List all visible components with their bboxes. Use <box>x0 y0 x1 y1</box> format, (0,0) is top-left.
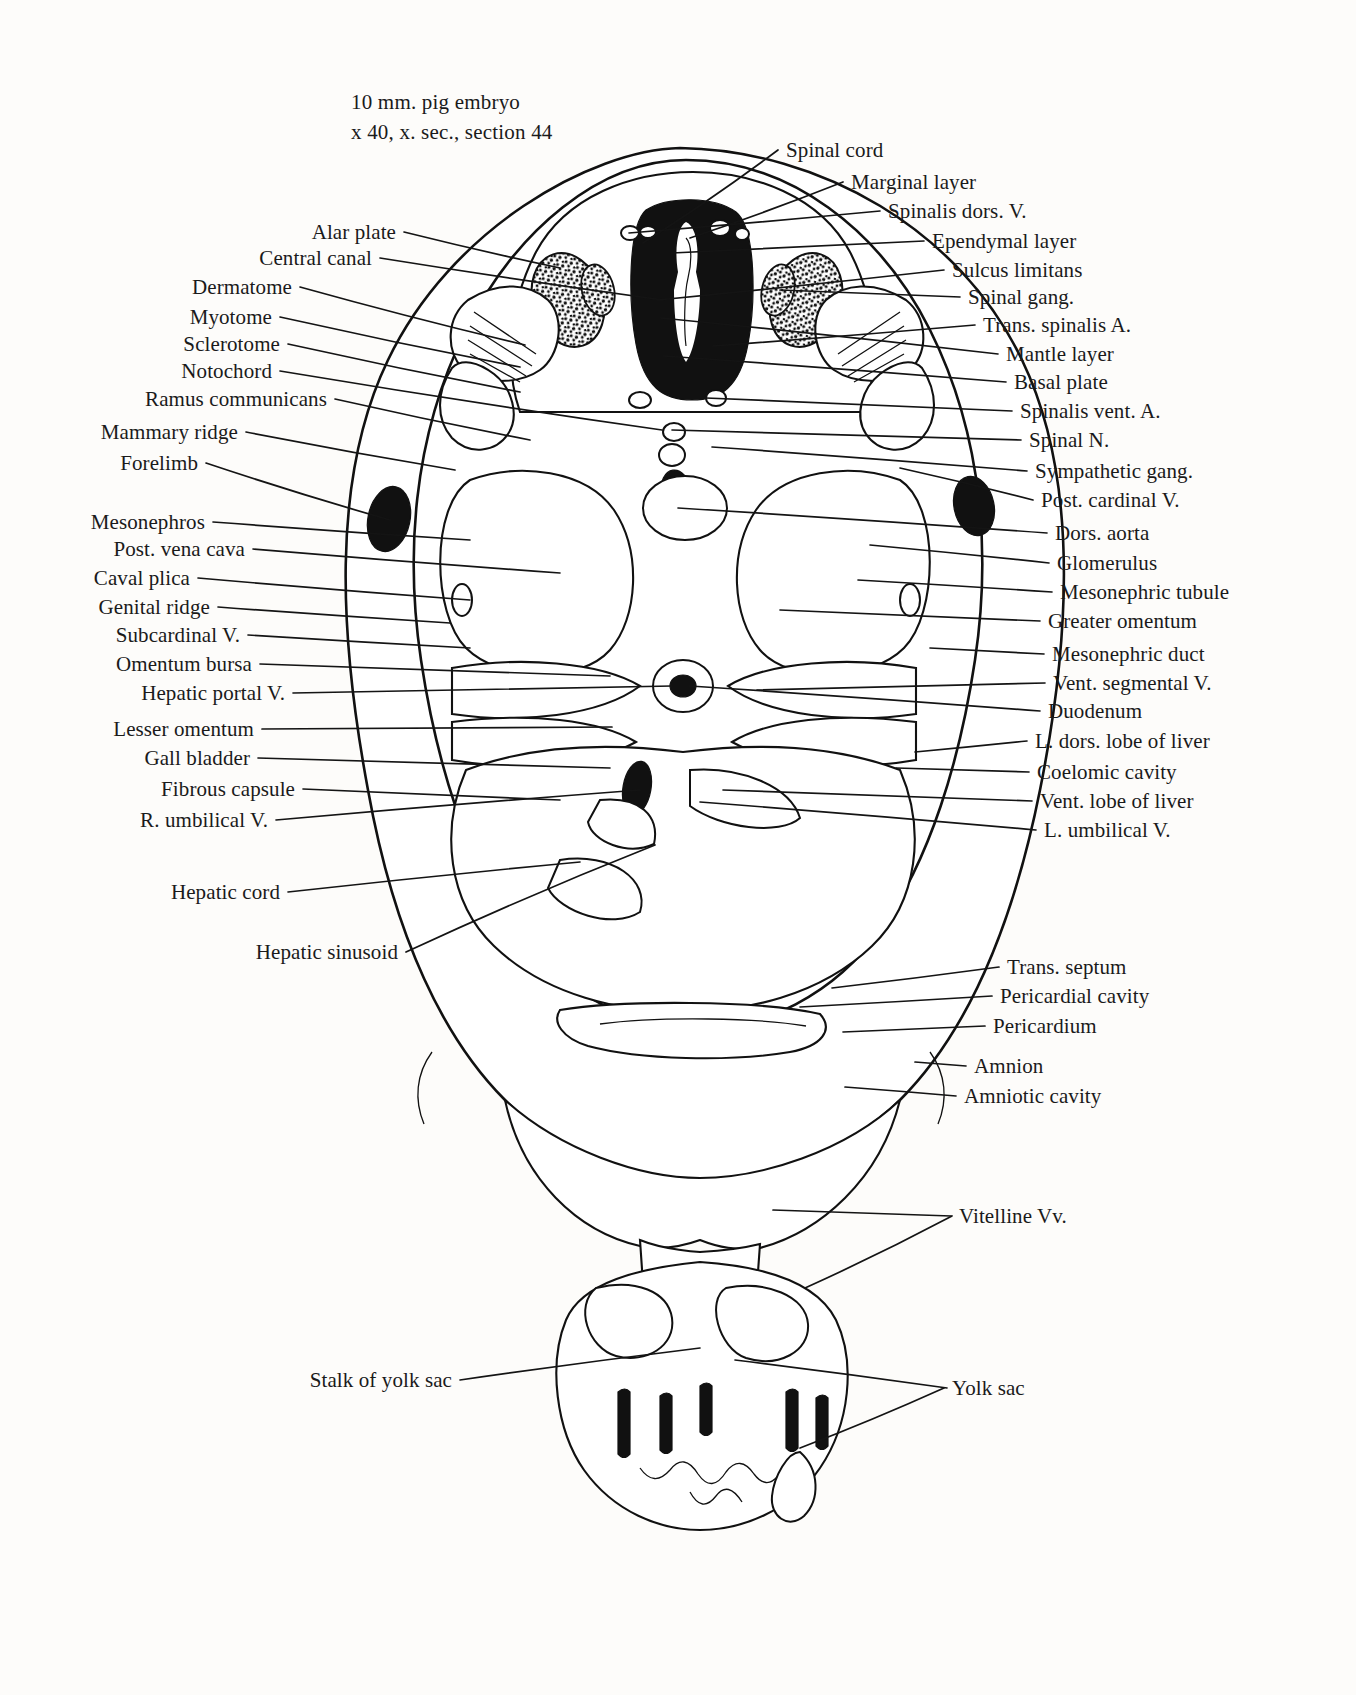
label-sulcus-limitans: Sulcus limitans <box>952 259 1082 282</box>
label-gall-bladder: Gall bladder <box>144 747 250 770</box>
label-amnion: Amnion <box>974 1055 1043 1078</box>
label-r-umbilical-v: R. umbilical V. <box>140 809 268 832</box>
label-mammary-ridge: Mammary ridge <box>101 421 238 444</box>
leader-line <box>276 790 640 820</box>
leader-line <box>664 356 1006 382</box>
label-sclerotome: Sclerotome <box>183 333 280 356</box>
leader-line <box>280 371 662 430</box>
label-trans-spinalis-a: Trans. spinalis A. <box>983 314 1131 337</box>
label-duodenum: Duodenum <box>1048 700 1142 723</box>
leader-line <box>300 287 525 345</box>
leader-lines <box>0 0 1356 1695</box>
leader-line <box>858 580 1052 592</box>
leader-line <box>930 648 1044 654</box>
label-mesonephric-tubule: Mesonephric tubule <box>1060 581 1229 604</box>
label-ramus-communicans: Ramus communicans <box>145 388 327 411</box>
label-mantle-layer: Mantle layer <box>1006 343 1114 366</box>
label-subcardinal-v: Subcardinal V. <box>116 624 240 647</box>
leader-line <box>672 241 924 253</box>
leader-line <box>780 610 1040 621</box>
leader-line <box>845 1087 956 1096</box>
label-hepatic-portal-v: Hepatic portal V. <box>141 682 285 705</box>
leader-line <box>896 768 1029 772</box>
label-alar-plate: Alar plate <box>312 221 396 244</box>
leader-line <box>280 317 520 367</box>
leader-line <box>406 845 655 952</box>
label-vent-segmental-v: Vent. segmental V. <box>1053 672 1212 695</box>
leader-line <box>690 686 1040 711</box>
leader-line <box>380 258 663 300</box>
leader-line <box>915 741 1027 752</box>
label-mesonephros: Mesonephros <box>91 511 205 534</box>
label-vent-lobe-of-liver: Vent. lobe of liver <box>1040 790 1194 813</box>
leader-line <box>713 325 975 346</box>
leader-line <box>335 399 530 440</box>
diagram-canvas: 10 mm. pig embryo x 40, x. sec., section… <box>0 0 1356 1695</box>
label-sympathetic-gang: Sympathetic gang. <box>1035 460 1193 483</box>
label-dors-aorta: Dors. aorta <box>1055 522 1149 545</box>
leader-line <box>690 182 843 238</box>
leader-line <box>260 664 610 676</box>
label-stalk-of-yolk-sac: Stalk of yolk sac <box>310 1369 452 1392</box>
leader-line <box>213 522 470 540</box>
label-spinal-n: Spinal N. <box>1029 429 1109 452</box>
leader-line <box>870 545 1049 563</box>
leader-line <box>288 862 580 892</box>
leader-line <box>723 790 1032 801</box>
label-vitelline-vv: Vitelline Vv. <box>959 1205 1067 1228</box>
leader-line <box>780 290 960 297</box>
label-post-vena-cava: Post. vena cava <box>113 538 245 561</box>
label-greater-omentum: Greater omentum <box>1048 610 1197 633</box>
label-l-dors-lobe-of-liver: L. dors. lobe of liver <box>1035 730 1210 753</box>
label-genital-ridge: Genital ridge <box>98 596 210 619</box>
label-pericardial-cavity: Pericardial cavity <box>1000 985 1149 1008</box>
leader-line <box>198 578 470 600</box>
label-coelomic-cavity: Coelomic cavity <box>1037 761 1177 784</box>
leader-line <box>900 468 1033 500</box>
leader-line <box>262 727 612 729</box>
leader-line <box>661 318 998 354</box>
leader-line <box>253 549 560 573</box>
leader-line <box>700 802 1036 830</box>
leader-line <box>460 1348 700 1380</box>
leader-line <box>706 398 1012 411</box>
leader-line <box>218 607 450 623</box>
leader-line <box>206 463 390 520</box>
label-forelimb: Forelimb <box>120 452 198 475</box>
label-marginal-layer: Marginal layer <box>851 171 976 194</box>
leader-line <box>735 1360 947 1388</box>
label-dermatome: Dermatome <box>192 276 292 299</box>
label-trans-septum: Trans. septum <box>1007 956 1127 979</box>
leader-line <box>248 635 470 648</box>
label-pericardium: Pericardium <box>993 1015 1097 1038</box>
leader-line <box>672 430 1021 440</box>
label-amniotic-cavity: Amniotic cavity <box>964 1085 1101 1108</box>
leader-line <box>404 232 560 268</box>
leader-line <box>915 1062 966 1066</box>
label-caval-plica: Caval plica <box>94 567 190 590</box>
leader-line <box>843 1026 985 1032</box>
leader-line <box>303 789 560 800</box>
leader-line <box>773 1210 951 1216</box>
label-post-cardinal-v: Post. cardinal V. <box>1041 489 1180 512</box>
label-omentum-bursa: Omentum bursa <box>116 653 252 676</box>
leader-line <box>757 683 1045 690</box>
label-yolk-sac: Yolk sac <box>952 1377 1025 1400</box>
label-mesonephric-duct: Mesonephric duct <box>1052 643 1205 666</box>
label-notochord: Notochord <box>181 360 272 383</box>
label-hepatic-sinusoid: Hepatic sinusoid <box>256 941 398 964</box>
label-central-canal: Central canal <box>259 247 372 270</box>
label-myotome: Myotome <box>190 306 272 329</box>
label-l-umbilical-v: L. umbilical V. <box>1044 819 1171 842</box>
leader-line <box>800 1388 944 1448</box>
label-lesser-omentum: Lesser omentum <box>113 718 254 741</box>
leader-line <box>258 758 610 768</box>
leader-line <box>293 686 672 693</box>
label-hepatic-cord: Hepatic cord <box>171 881 280 904</box>
leader-line <box>800 996 992 1007</box>
label-basal-plate: Basal plate <box>1014 371 1108 394</box>
label-spinalis-vent-a: Spinalis vent. A. <box>1020 400 1161 423</box>
leader-line <box>246 432 455 470</box>
leader-line <box>643 150 778 243</box>
leader-line <box>712 447 1027 471</box>
